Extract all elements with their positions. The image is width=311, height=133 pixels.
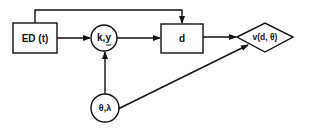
node-theta-lambda-label: θ,λ — [99, 103, 111, 113]
edge-theta-to-v — [118, 45, 248, 109]
node-ed-label: ED (t) — [22, 33, 49, 44]
node-ky-label: k,y — [97, 32, 111, 43]
node-ky: k,y — [91, 25, 117, 51]
node-theta-lambda: θ,λ — [91, 94, 119, 122]
node-v: v(d, θ) — [237, 23, 293, 52]
edges — [35, 10, 248, 109]
node-d: d — [161, 24, 203, 53]
node-ed: ED (t) — [13, 23, 57, 53]
edge-ed-to-d — [35, 10, 182, 23]
node-d-label: d — [179, 33, 185, 44]
node-v-label: v(d, θ) — [253, 32, 278, 42]
diagram-canvas: ED (t) k,y d v(d, θ) θ,λ — [0, 0, 311, 133]
